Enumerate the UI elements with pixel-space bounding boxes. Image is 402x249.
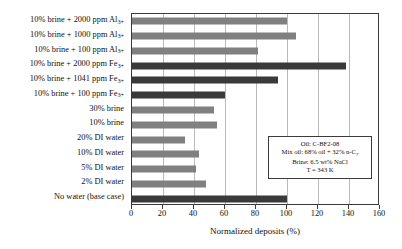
x-tick-label-40: 40 (189, 209, 197, 218)
conditions-annotation-box: Oil: C-BF2-08 Mix oil: 68% oil + 32% n-C… (268, 136, 372, 179)
category-label-text: 10% brine + 2000 ppm Al (30, 15, 117, 24)
category-label-text: 10% brine + 2000 ppm Fe (30, 59, 118, 68)
bar (132, 18, 287, 25)
category-label-subscript: 3+ (117, 18, 124, 25)
x-tick-label-160: 160 (373, 209, 386, 218)
bar (132, 92, 225, 99)
bar (132, 180, 206, 187)
bar (132, 62, 346, 69)
inset-mixoil-subscript: 7 (356, 152, 359, 157)
category-label: 30% brine (0, 102, 128, 117)
inset-line-brine: Brine: 6.5 wt% NaCl (271, 158, 369, 166)
bar-chart: 10% brine + 2000 ppm Al3+10% brine + 100… (0, 0, 402, 249)
bar-row (132, 88, 378, 103)
category-label: 10% DI water (0, 146, 128, 161)
x-axis-title: Normalized deposits (%) (131, 226, 379, 236)
category-label-subscript: 3+ (117, 62, 124, 69)
bar (132, 151, 199, 158)
bar (132, 136, 185, 143)
bar-row (132, 73, 378, 88)
category-label: 5% DI water (0, 161, 128, 176)
x-tick-label-60: 60 (220, 209, 228, 218)
category-label-text: 10% brine (89, 118, 124, 127)
bar (132, 195, 287, 202)
bar-row (132, 58, 378, 73)
inset-line-mixoil: Mix oil: 68% oil + 32% n-C7 (271, 148, 369, 157)
x-tick-label-140: 140 (342, 209, 355, 218)
bar (132, 166, 196, 173)
x-tick-label-0: 0 (129, 209, 133, 218)
bar-row (132, 29, 378, 44)
category-label-text: 10% brine + 100 ppm Fe (34, 89, 118, 98)
category-label-text: 5% DI water (81, 163, 124, 172)
category-label-text: 10% DI water (77, 148, 124, 157)
inset-line-temperature: T = 343 K (271, 166, 369, 174)
category-label: 10% brine (0, 116, 128, 131)
category-label: 10% brine + 100 ppm Al3+ (0, 43, 128, 58)
category-label-text: No water (base case) (54, 192, 124, 201)
bar (132, 121, 217, 128)
bar-row (132, 117, 378, 132)
category-label: 10% brine + 1000 ppm Al3+ (0, 28, 128, 43)
category-label: No water (base case) (0, 190, 128, 205)
bar-row (132, 191, 378, 206)
category-label-subscript: 3+ (117, 47, 124, 54)
category-label-text: 20% DI water (77, 133, 124, 142)
inset-mixoil-text: Mix oil: 68% oil + 32% n-C (282, 148, 356, 155)
category-label-subscript: 3+ (117, 32, 124, 39)
category-label-text: 10% brine + 1000 ppm Al (30, 30, 117, 39)
bar (132, 106, 214, 113)
category-label: 10% brine + 100 ppm Fe3+ (0, 87, 128, 102)
bar-row (132, 14, 378, 29)
x-tick-label-20: 20 (158, 209, 166, 218)
bar (132, 77, 278, 84)
bar-row (132, 176, 378, 191)
category-label: 20% DI water (0, 131, 128, 146)
category-label: 10% brine + 2000 ppm Al3+ (0, 13, 128, 28)
bar-row (132, 44, 378, 59)
category-label-subscript: 3+ (117, 77, 124, 84)
category-label-subscript: 3+ (117, 91, 124, 98)
x-tick-label-100: 100 (280, 209, 293, 218)
x-tick-label-120: 120 (311, 209, 324, 218)
category-label-text: 2% DI water (81, 177, 124, 186)
inset-line-oil: Oil: C-BF2-08 (271, 140, 369, 148)
bar (132, 33, 296, 40)
category-label-text: 10% brine + 1041 ppm Fe (30, 74, 118, 83)
category-label: 10% brine + 2000 ppm Fe3+ (0, 57, 128, 72)
category-label-text: 30% brine (89, 104, 124, 113)
x-tick-label-80: 80 (251, 209, 259, 218)
bar (132, 47, 258, 54)
category-axis-labels: 10% brine + 2000 ppm Al3+10% brine + 100… (0, 13, 128, 205)
category-label-text: 10% brine + 100 ppm Al (34, 45, 117, 54)
bar-row (132, 103, 378, 118)
category-label: 10% brine + 1041 ppm Fe3+ (0, 72, 128, 87)
category-label: 2% DI water (0, 175, 128, 190)
